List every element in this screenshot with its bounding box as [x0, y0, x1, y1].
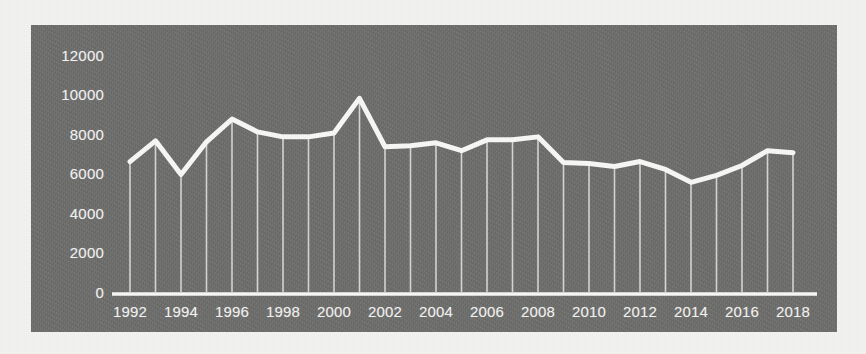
line-chart-plot	[31, 25, 837, 332]
x-axis-tick-label: 1996	[206, 303, 258, 320]
y-axis-tick-label: 4000	[70, 205, 104, 222]
chart-panel: 020004000600080001000012000 199219941996…	[31, 25, 837, 332]
x-axis-tick-label: 2014	[665, 303, 717, 320]
x-axis-tick-label: 2004	[410, 303, 462, 320]
x-axis-tick-label: 2012	[614, 303, 666, 320]
y-axis-tick-label: 0	[95, 284, 104, 301]
drop-lines-group	[130, 100, 793, 292]
y-axis-tick-label: 8000	[70, 126, 104, 143]
x-axis-tick-label: 2006	[461, 303, 513, 320]
x-axis-tick-label: 2018	[767, 303, 819, 320]
x-axis-tick-label: 1998	[257, 303, 309, 320]
x-axis-tick-label: 2010	[563, 303, 615, 320]
x-axis-tick-label: 1994	[155, 303, 207, 320]
x-axis-tick-label: 1992	[104, 303, 156, 320]
x-axis-tick-label: 2000	[308, 303, 360, 320]
y-axis-tick-label: 12000	[61, 47, 104, 64]
y-axis-tick-label: 2000	[70, 244, 104, 261]
x-axis-tick-label: 2002	[359, 303, 411, 320]
y-axis-tick-label: 6000	[70, 165, 104, 182]
x-axis-tick-label: 2008	[512, 303, 564, 320]
y-axis-tick-label: 10000	[61, 86, 104, 103]
chart-screenshot: 020004000600080001000012000 199219941996…	[0, 0, 866, 354]
x-axis-tick-label: 2016	[716, 303, 768, 320]
